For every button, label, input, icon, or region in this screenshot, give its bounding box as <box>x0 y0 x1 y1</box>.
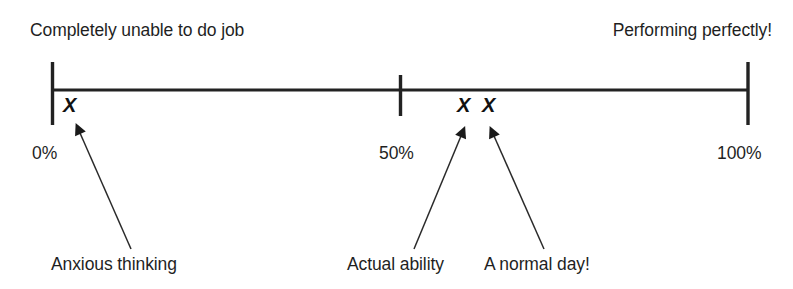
leader-arrow-normal-day <box>494 136 544 249</box>
annotation-label-anxious-thinking: Anxious thinking <box>51 256 177 274</box>
tick-label-0-percent: 0% <box>32 145 57 163</box>
marker-x-anxious-thinking: X <box>63 95 76 115</box>
marker-x-actual-ability: X <box>457 95 470 115</box>
leader-arrow-actual-ability <box>414 136 461 249</box>
scale-right-endpoint-label: Performing perfectly! <box>613 22 772 40</box>
marker-x-normal-day: X <box>482 95 495 115</box>
scale-left-endpoint-label: Completely unable to do job <box>30 22 244 40</box>
annotation-label-normal-day: A normal day! <box>484 256 590 274</box>
leader-arrow-anxious-thinking <box>80 133 131 249</box>
tick-label-100-percent: 100% <box>717 145 761 163</box>
tick-label-50-percent: 50% <box>379 145 414 163</box>
diagram-canvas: Completely unable to do job Performing p… <box>0 0 793 289</box>
annotation-label-actual-ability: Actual ability <box>347 256 444 274</box>
